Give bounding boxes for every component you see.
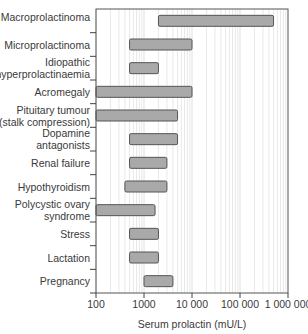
category-label: Pregnancy <box>40 275 90 287</box>
range-bar <box>144 276 173 287</box>
range-bar <box>96 110 178 121</box>
category-label: Acromegaly <box>35 86 90 98</box>
range-bar <box>130 63 159 74</box>
x-tick-label: 10 000 <box>176 298 208 310</box>
range-bar <box>158 15 273 26</box>
category-label: Pituitary tumour(stalk compression) <box>0 104 90 128</box>
range-bar <box>130 228 159 239</box>
range-bar <box>130 39 192 50</box>
x-axis-title: Serum prolactin (mU/L) <box>138 318 247 330</box>
category-label: Renal failure <box>31 157 90 169</box>
category-label: Idiopathichyperprolactinaemia <box>0 56 90 80</box>
category-label: Lactation <box>47 252 90 264</box>
category-label: Polycystic ovarysyndrome <box>15 198 90 222</box>
range-bar <box>130 134 178 145</box>
category-label: Microprolactinoma <box>4 39 90 51</box>
range-bar <box>125 181 167 192</box>
range-bar <box>96 205 155 216</box>
range-bar <box>130 252 159 263</box>
range-bar <box>130 157 167 168</box>
x-tick-label: 100 000 <box>221 298 259 310</box>
y-ticks <box>90 33 96 293</box>
grid-lines <box>96 9 286 293</box>
category-label: Stress <box>60 228 90 240</box>
x-tick-label: 1000 <box>132 298 155 310</box>
x-tick-label: 100 <box>87 298 105 310</box>
category-label: Macroprolactinoma <box>1 11 90 23</box>
x-tick-label: 1 000 000 <box>265 298 308 310</box>
range-bar <box>96 86 192 97</box>
category-label: Dopamineantagonists <box>36 127 90 151</box>
category-label: Hypothyroidism <box>18 181 90 193</box>
